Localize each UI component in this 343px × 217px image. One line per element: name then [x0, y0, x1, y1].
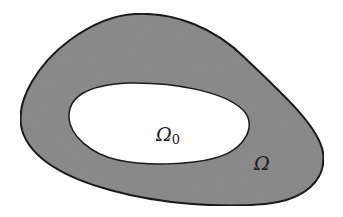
diagram-canvas: Ω0 Ω	[0, 0, 343, 217]
region-diagram	[0, 0, 343, 217]
inner-region-label: Ω0	[156, 125, 180, 146]
subscript-zero: 0	[172, 132, 180, 147]
outer-region-label: Ω	[254, 154, 270, 173]
omega-symbol: Ω	[156, 123, 172, 145]
